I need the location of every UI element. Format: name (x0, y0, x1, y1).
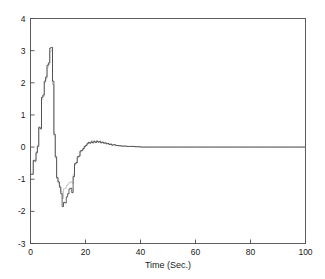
x-tick-label: 0 (28, 247, 33, 257)
y-tick-label: 2 (21, 78, 26, 88)
plot-frame (31, 19, 306, 244)
chart-figure: 020406080100 -3-2-101234 Time (Sec.) (0, 0, 325, 279)
y-tick-label: 0 (21, 142, 26, 152)
x-tick-label: 80 (246, 247, 256, 257)
y-tick-label: 1 (21, 110, 26, 120)
x-axis-title: Time (Sec.) (145, 260, 191, 270)
chart-canvas: 020406080100 -3-2-101234 Time (Sec.) (0, 0, 325, 279)
x-tick-label: 20 (81, 247, 91, 257)
x-tick-label: 60 (191, 247, 201, 257)
y-tick-label: -1 (18, 174, 26, 184)
x-axis-ticks: 020406080100 (28, 240, 313, 257)
x-tick-label: 100 (298, 247, 312, 257)
data-series-group (31, 47, 306, 206)
y-tick-label: 4 (21, 14, 26, 24)
y-tick-label: -3 (18, 239, 26, 249)
x-tick-label: 40 (136, 247, 146, 257)
y-tick-label: -2 (18, 206, 26, 216)
y-axis-ticks: -3-2-101234 (18, 14, 35, 249)
series-line-reference (31, 50, 306, 199)
axes-frame (31, 19, 306, 244)
y-tick-label: 3 (21, 46, 26, 56)
